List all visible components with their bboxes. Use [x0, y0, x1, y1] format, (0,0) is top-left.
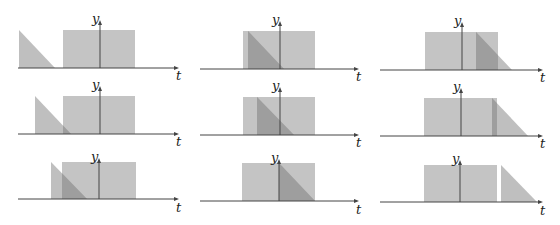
y-axis-label: y [452, 79, 461, 94]
triangle-pulse [492, 98, 528, 136]
t-axis-label: t [540, 70, 546, 85]
t-axis-label: t [356, 135, 362, 150]
panel-2-1: yt [200, 150, 362, 217]
panel-0-2: yt [380, 13, 546, 85]
panel-0-0: yt [18, 11, 182, 83]
panel-1-1: yt [200, 78, 362, 150]
y-axis-label: y [451, 151, 460, 166]
t-axis-label: t [356, 202, 362, 217]
y-axis-label: y [271, 78, 280, 93]
rect-pulse [63, 30, 135, 68]
panel-2-0: yt [18, 149, 182, 215]
triangle-pulse [501, 165, 537, 202]
y-axis-label: y [453, 13, 462, 28]
t-axis-label: t [540, 203, 546, 218]
y-axis-label: y [91, 77, 100, 92]
t-axis-label: t [176, 68, 182, 83]
triangle-pulse [19, 30, 55, 68]
panel-2-2: yt [380, 151, 546, 218]
y-axis-label: y [270, 150, 279, 165]
y-axis-label: y [90, 149, 99, 164]
t-axis-label: t [176, 134, 182, 149]
t-axis-label: t [176, 200, 182, 215]
panel-1-2: yt [380, 79, 546, 151]
y-axis-label: y [271, 12, 280, 27]
panel-1-0: yt [18, 77, 182, 149]
y-axis-label: y [91, 11, 100, 26]
convolution-diagram-grid: ytytytytytytytytyt [0, 0, 560, 225]
overlap-region [492, 98, 497, 136]
t-axis-label: t [356, 69, 362, 84]
t-axis-label: t [540, 136, 546, 151]
rect-pulse [63, 96, 135, 134]
panel-0-1: yt [200, 12, 362, 84]
